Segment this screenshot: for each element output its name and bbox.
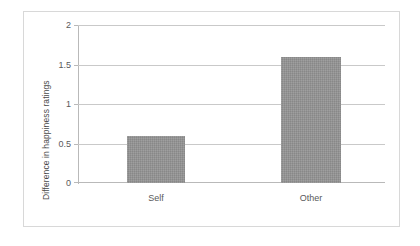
y-tick-mark-0.5 [74,144,78,145]
y-axis-title: Difference in happiness ratings [39,30,53,200]
bar-other[interactable] [281,57,341,183]
y-tick-label: 0.5 [58,140,71,149]
x-tick-label-other: Other [300,194,323,203]
bar-chart-figure: Difference in happiness ratings 00.511.5… [0,0,420,246]
x-tick-label-self: Self [148,194,164,203]
y-tick-label: 1 [66,100,71,109]
gridline-2 [78,25,385,26]
y-tick-mark-1.5 [74,65,78,66]
y-tick-label: 0 [66,179,71,188]
y-tick-mark-0 [74,182,78,183]
y-tick-mark-1 [74,104,78,105]
y-tick-label: 1.5 [58,61,71,70]
y-tick-label: 2 [66,21,71,30]
plot-area: 00.511.52SelfOther [78,25,385,183]
y-tick-mark-2 [74,25,78,26]
bar-self[interactable] [127,136,185,183]
